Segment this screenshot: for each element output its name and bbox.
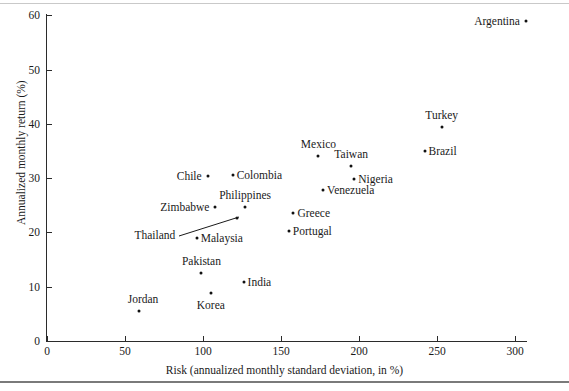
y-tick-label: 60 xyxy=(29,9,41,21)
x-tick-mark xyxy=(281,336,282,341)
x-axis-title: Risk (annualized monthly standard deviat… xyxy=(0,364,569,376)
data-point xyxy=(423,149,426,152)
data-point xyxy=(524,19,527,22)
data-point xyxy=(138,310,141,313)
data-point-label: Mexico xyxy=(301,138,336,150)
data-point-label: Philippines xyxy=(219,189,271,201)
y-tick-label: 20 xyxy=(29,226,41,238)
x-tick-mark xyxy=(125,336,126,341)
y-tick-mark xyxy=(47,15,52,16)
data-point xyxy=(440,125,443,128)
data-point-label: Thailand xyxy=(134,229,175,241)
x-axis-line xyxy=(46,341,527,342)
y-tick-label: 0 xyxy=(34,335,40,347)
data-point xyxy=(200,271,203,274)
data-point xyxy=(292,212,295,215)
data-point xyxy=(317,155,320,158)
y-tick-label: 40 xyxy=(29,118,41,130)
data-point-label: Chile xyxy=(177,170,202,182)
scatter-plot-figure: 050100150200250300 0102030405060 Argenti… xyxy=(0,0,569,391)
data-point-label: Pakistan xyxy=(182,255,221,267)
data-point xyxy=(353,177,356,180)
x-tick-label: 0 xyxy=(44,345,50,357)
data-point-label: Zimbabwe xyxy=(160,201,209,213)
data-point xyxy=(242,280,245,283)
data-point xyxy=(287,229,290,232)
data-point xyxy=(209,291,212,294)
data-point-label: Brazil xyxy=(429,145,457,157)
data-point xyxy=(231,173,234,176)
x-tick-mark xyxy=(437,336,438,341)
x-tick-label: 250 xyxy=(428,345,445,357)
data-point-label: Venezuela xyxy=(327,184,374,196)
data-point-label: Greece xyxy=(297,207,330,219)
data-point xyxy=(350,165,353,168)
thailand-leader-line xyxy=(178,214,242,238)
y-tick-mark xyxy=(47,341,52,342)
data-point-label: Portugal xyxy=(293,225,332,237)
data-point xyxy=(206,174,209,177)
data-point-label: Jordan xyxy=(128,293,159,305)
bottom-divider-rule xyxy=(0,381,569,383)
x-tick-label: 300 xyxy=(506,345,523,357)
data-point xyxy=(244,206,247,209)
x-tick-mark xyxy=(515,336,516,341)
y-tick-label: 10 xyxy=(29,281,41,293)
y-tick-mark xyxy=(47,124,52,125)
data-point-label: Turkey xyxy=(425,109,458,121)
data-point-label: Argentina xyxy=(474,15,520,27)
y-tick-label: 50 xyxy=(29,64,41,76)
y-tick-mark xyxy=(47,178,52,179)
data-point-label: Korea xyxy=(197,299,225,311)
data-point-label: India xyxy=(248,276,272,288)
x-tick-label: 100 xyxy=(194,345,211,357)
y-tick-mark xyxy=(47,232,52,233)
data-point xyxy=(214,206,217,209)
y-tick-label: 30 xyxy=(29,172,41,184)
x-tick-mark xyxy=(359,336,360,341)
x-tick-label: 150 xyxy=(272,345,289,357)
y-tick-mark xyxy=(47,70,52,71)
data-point xyxy=(322,189,325,192)
x-tick-mark xyxy=(203,336,204,341)
y-axis-title: Annualized monthly return (%) xyxy=(15,80,27,225)
x-tick-label: 50 xyxy=(119,345,131,357)
data-point-label: Nigeria xyxy=(358,173,392,185)
data-point-label: Taiwan xyxy=(334,148,368,160)
data-point-label: Colombia xyxy=(237,169,282,181)
x-tick-label: 200 xyxy=(350,345,367,357)
y-tick-mark xyxy=(47,287,52,288)
